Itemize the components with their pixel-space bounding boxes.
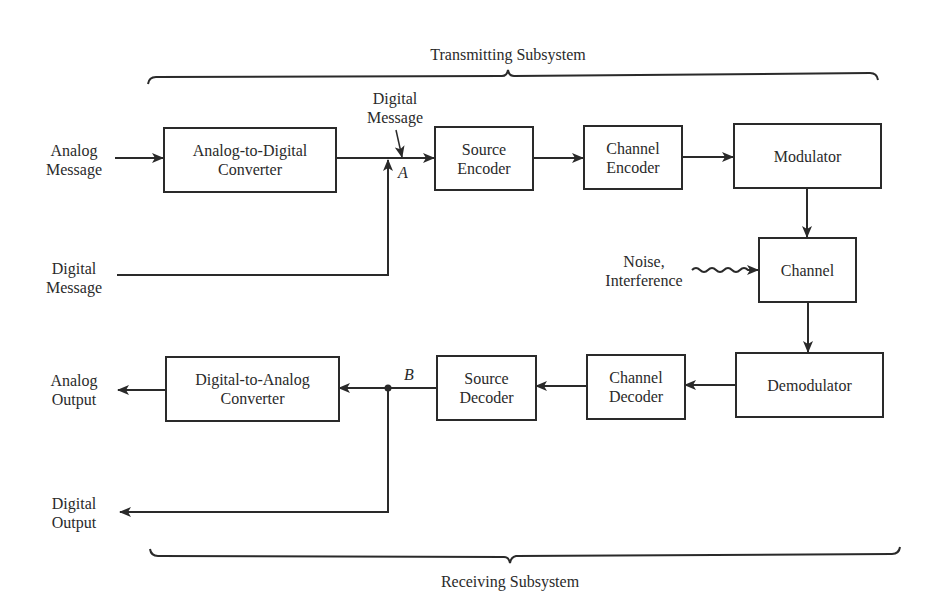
source-decoder-label: Source Decoder	[459, 369, 513, 407]
source-encoder-block: Source Encoder	[434, 126, 534, 191]
diagram-connectors	[0, 0, 945, 610]
channel-encoder-block: Channel Encoder	[583, 125, 683, 190]
receiving-subsystem-label: Receiving Subsystem	[420, 572, 600, 591]
analog-output-label: Analog Output	[38, 371, 110, 409]
channel-block: Channel	[758, 237, 857, 303]
channel-encoder-label: Channel Encoder	[606, 139, 659, 177]
receiving-brace	[150, 547, 900, 563]
transmitting-subsystem-label: Transmitting Subsystem	[413, 45, 603, 64]
demodulator-block: Demodulator	[735, 352, 884, 418]
adc-label: Analog-to-Digital Converter	[193, 141, 308, 179]
junction-dot	[385, 385, 392, 392]
dac-label: Digital-to-Analog Converter	[195, 370, 310, 408]
digital-message-label: Digital Message	[38, 259, 110, 297]
analog-message-label: Analog Message	[38, 141, 110, 179]
modulator-label: Modulator	[774, 147, 842, 166]
digital-output-label: Digital Output	[38, 494, 110, 532]
adc-block: Analog-to-Digital Converter	[163, 127, 337, 193]
modulator-block: Modulator	[733, 123, 882, 189]
digital-message-tag: Digital Message	[360, 89, 430, 127]
noise-interference-label: Noise, Interference	[596, 252, 692, 290]
point-a-label: A	[396, 163, 410, 182]
channel-decoder-block: Channel Decoder	[586, 354, 686, 420]
source-encoder-label: Source Encoder	[457, 140, 510, 178]
transmitting-brace	[148, 70, 878, 84]
channel-decoder-label: Channel Decoder	[609, 368, 663, 406]
source-decoder-block: Source Decoder	[436, 355, 537, 421]
channel-label: Channel	[781, 261, 834, 280]
point-b-label: B	[402, 365, 416, 384]
demodulator-label: Demodulator	[767, 376, 851, 395]
dac-block: Digital-to-Analog Converter	[165, 356, 340, 422]
